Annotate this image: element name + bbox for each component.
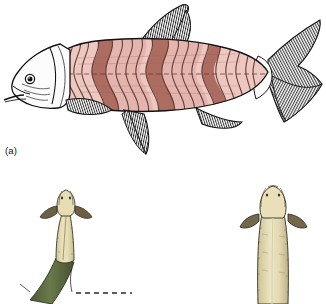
- panel-label-a: (a): [5, 146, 17, 156]
- salamander-left-forelimb-right: [75, 206, 92, 218]
- pelvic-fin-icon: [122, 110, 149, 154]
- figure-root: (a): [0, 0, 326, 304]
- salamander-left-tail: [30, 258, 74, 304]
- salamander-left-head: [57, 190, 75, 216]
- eye-icon: [25, 74, 34, 83]
- salamander-right-forelimb-right: [288, 214, 307, 228]
- panel-a-fish-anatomy: (a): [0, 0, 326, 180]
- anal-fin-icon: [196, 108, 242, 128]
- salamander-left-forelimb-left: [40, 206, 57, 218]
- fish-illustration: [0, 0, 326, 180]
- salamander-left-body: [56, 214, 74, 263]
- fish-head: [4, 44, 70, 108]
- salamander-right: [240, 186, 307, 304]
- salamander-illustrations: [0, 180, 326, 304]
- panel-b-salamander-forces: Forward thrust Reactive force: [0, 180, 326, 304]
- salamander-left: [30, 190, 92, 304]
- salamander-right-forelimb-left: [240, 214, 259, 228]
- leader-line-left: [20, 284, 30, 292]
